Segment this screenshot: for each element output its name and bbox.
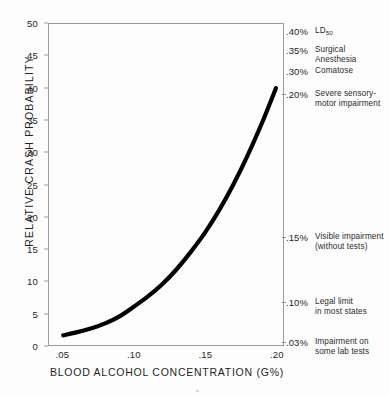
bac-annotation-label: SurgicalAnesthesia — [315, 45, 357, 66]
plot-area — [48, 23, 284, 346]
x-tick-label: .15 — [198, 349, 212, 360]
y-tick-label: 0 — [33, 341, 38, 352]
bac-annotation-value: .30% — [286, 66, 311, 77]
bac-annotation-label-line2: Anesthesia — [315, 55, 357, 65]
bac-annotation-label-line1: Surgical — [315, 45, 345, 54]
y-tick-label: 10 — [27, 276, 38, 287]
bac-annotation-value: .03% — [286, 337, 311, 348]
bac-annotation-label-line1: Visible impairment — [315, 232, 384, 241]
right-axis-tick-mark — [282, 237, 286, 238]
bac-annotation: .15%Visible impairment(without tests) — [286, 232, 384, 253]
x-tick-label: .05 — [55, 349, 69, 360]
bac-annotation-label-line2: motor impairment — [315, 99, 380, 109]
bac-annotation-label-line1: LD — [315, 26, 326, 35]
bac-annotation-label-line2: (without tests) — [315, 242, 384, 252]
bac-annotation: .03%Impairment onsome lab tests — [286, 337, 369, 358]
y-tick-label: 50 — [27, 18, 38, 29]
bac-annotation-label: Impairment onsome lab tests — [315, 337, 369, 358]
bac-annotation-label: Legal limitin most states — [315, 297, 367, 318]
bac-annotation-label-line2: some lab tests — [315, 347, 369, 357]
x-axis-title: BLOOD ALCOHOL CONCENTRATION (G%) — [34, 366, 300, 378]
y-axis-title: RELATIVE CRASH PROBABILITY — [23, 36, 35, 266]
right-axis-tick-mark — [282, 94, 286, 95]
bac-annotation-value: .35% — [286, 45, 311, 56]
bac-annotation-label-line1: Legal limit — [315, 297, 353, 306]
bac-annotation-label: Severe sensory-motor impairment — [315, 89, 380, 110]
bac-annotation-label-line1: Comatose — [315, 66, 353, 75]
y-tick-label: 5 — [33, 308, 38, 319]
bac-annotation-label: LD50 — [315, 26, 333, 36]
bac-annotation: .10%Legal limitin most states — [286, 297, 367, 318]
bac-annotation-label-line1: Severe sensory- — [315, 89, 376, 98]
bac-annotation: .30%Comatose — [286, 66, 353, 77]
crash-probability-curve — [49, 24, 283, 345]
bac-effect-annotations: .40%LD50.35%SurgicalAnesthesia.30%Comato… — [286, 0, 389, 395]
right-axis-tick-mark — [282, 302, 286, 303]
bac-annotation-label-line1: Impairment on — [315, 337, 369, 346]
scan-speck — [196, 390, 199, 392]
x-tick-label: .10 — [127, 349, 141, 360]
bac-annotation-label: Comatose — [315, 66, 353, 76]
bac-annotation-label: Visible impairment(without tests) — [315, 232, 384, 253]
x-tick-label: .20 — [270, 349, 284, 360]
bac-annotation-label-line2: in most states — [315, 307, 367, 317]
bac-annotation-value: .20% — [286, 89, 311, 100]
bac-annotation-value: .15% — [286, 232, 311, 243]
bac-annotation: .40%LD50 — [286, 26, 333, 37]
bac-annotation: .20%Severe sensory-motor impairment — [286, 89, 380, 110]
bac-annotation-value: .40% — [286, 26, 311, 37]
bac-annotation: .35%SurgicalAnesthesia — [286, 45, 357, 66]
y-axis-ticks: 05101520253035404550 — [0, 23, 44, 346]
bac-annotation-value: .10% — [286, 297, 311, 308]
right-axis-tick-mark — [282, 342, 286, 343]
bac-annotation-subscript: 50 — [326, 29, 333, 36]
x-axis-ticks: .05.10.15.20 — [48, 349, 284, 365]
chart-figure: 05101520253035404550 RELATIVE CRASH PROB… — [0, 0, 389, 395]
